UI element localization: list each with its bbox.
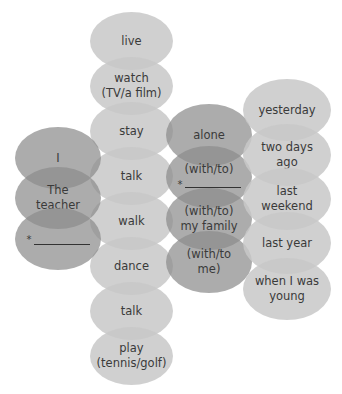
verb-label: watch (TV/a film) [101, 71, 161, 101]
verb-oval-play: play (tennis/golf) [90, 327, 173, 385]
verb-label: play (tennis/golf) [97, 341, 167, 371]
companion-label: alone [193, 128, 225, 143]
time-label: two days ago [261, 140, 313, 170]
time-label: when I was young [255, 274, 319, 304]
verb-label: talk [121, 304, 142, 319]
blank-line [34, 234, 90, 245]
companion-label: (with/to) my family [180, 204, 237, 234]
asterisk-mark: * [178, 179, 183, 190]
subject-oval-blank: * [15, 208, 101, 270]
time-oval-when-young: when I was young [243, 258, 331, 320]
verb-label: dance [114, 259, 149, 274]
blank-line [185, 177, 241, 188]
verb-label: walk [118, 214, 144, 229]
time-label: yesterday [258, 103, 315, 118]
subject-label: I [56, 151, 59, 166]
time-label: last weekend [261, 184, 312, 214]
verb-label: stay [119, 124, 143, 139]
verb-label: live [121, 34, 141, 49]
companion-oval-me: (with/to me) [166, 231, 252, 293]
verb-label: talk [121, 169, 142, 184]
asterisk-mark: * [27, 232, 32, 247]
companion-label: (with/to me) [187, 247, 231, 277]
time-label: last year [262, 236, 312, 251]
companion-label: (with/to) [185, 162, 234, 177]
